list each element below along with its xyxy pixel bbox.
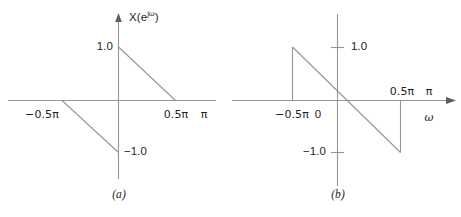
- figure-vector-layer: [0, 0, 461, 217]
- panel-b-axis-title-omega: ω: [420, 112, 438, 123]
- panel-a-label-positive-one: 1.0: [74, 41, 113, 53]
- panel-a-caption: (a): [99, 189, 139, 201]
- panel-b-label-negative-one: −1.0: [286, 146, 326, 158]
- panel-a-axis-title-base: X(e: [129, 11, 147, 23]
- panel-a-group: [8, 13, 216, 179]
- panel-a-segment-left: [62, 101, 119, 153]
- panel-b-descending-ramp: [293, 47, 401, 153]
- panel-b-label-pos-half-pi: 0.5π: [381, 86, 423, 97]
- panel-b-group: [232, 14, 456, 186]
- panel-b-label-pi: π: [420, 86, 438, 97]
- panel-a-axis-title: X(ejω): [129, 10, 159, 23]
- panel-a-segment-right: [119, 47, 176, 101]
- panel-a-label-neg-half-pi: −0.5π: [19, 109, 65, 120]
- figure-root: X(ejω) 1.0 −1.0 −0.5π 0.5π π (a) 1.0 −1.…: [0, 0, 461, 217]
- panel-b-label-positive-one: 1.0: [351, 41, 367, 53]
- panel-b-label-origin: 0: [311, 109, 325, 121]
- panel-a-axis-title-superscript: jω: [147, 9, 155, 18]
- panel-b-x-axis-arrow-icon: [446, 97, 456, 104]
- panel-a-label-pos-half-pi: 0.5π: [155, 109, 197, 120]
- panel-a-label-pi: π: [195, 109, 213, 120]
- panel-b-label-neg-half-pi: −0.5π: [269, 109, 315, 120]
- panel-a-y-axis-arrow-icon: [115, 13, 122, 22]
- panel-b-caption: (b): [318, 189, 358, 201]
- panel-a-axis-title-close: ): [155, 11, 159, 23]
- panel-a-label-negative-one: −1.0: [124, 146, 147, 158]
